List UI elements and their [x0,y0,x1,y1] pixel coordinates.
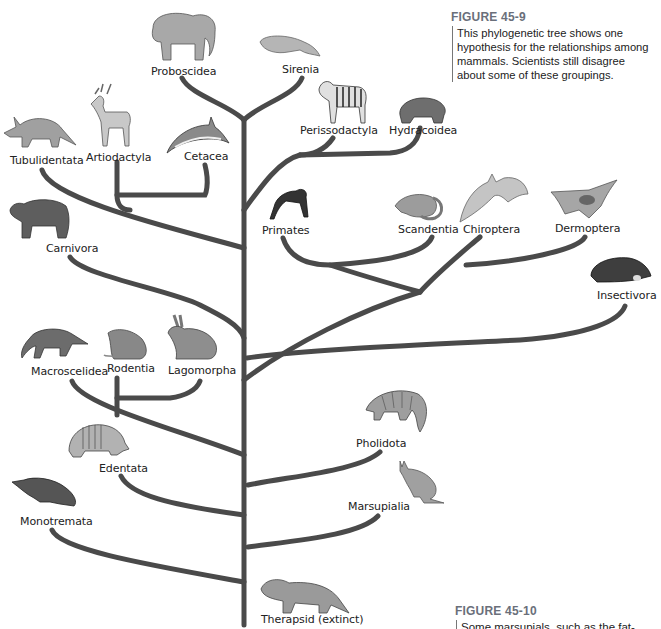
elephant-shrew-icon [16,322,88,364]
therapsid-icon [259,575,351,617]
tree-shrew-icon [393,186,445,222]
taxon-label: Monotremata [20,515,93,528]
taxon-label: Edentata [99,462,148,475]
chimpanzee-icon [266,185,310,223]
taxon-label: Proboscidea [151,65,216,78]
next-figure-heading: FIGURE 45-10 [455,604,537,618]
taxon-label: Hydracoidea [389,124,457,137]
deer-icon [85,82,135,150]
platypus-icon [10,474,78,510]
taxon-label: Sirenia [282,63,319,76]
next-figure-caption: Some marsupials, such as the fat-tailed [456,620,661,629]
taxon-label: Tubulidentata [10,154,84,167]
aardvark-icon [2,113,78,153]
manatee-icon [258,32,322,60]
figure-caption: This phylogenetic tree shows one hypothe… [452,26,655,82]
bat-icon [458,172,530,224]
taxon-label: Insectivora [597,289,657,302]
taxon-label: Lagomorpha [168,364,236,377]
taxon-label: Artiodactyla [86,151,151,164]
mouse-icon [102,325,150,361]
taxon-label: Macroscelidea [31,365,108,378]
figure-heading: FIGURE 45-9 [451,10,526,24]
rabbit-icon [164,313,220,363]
elephant-icon [145,8,220,64]
pangolin-icon [362,386,430,436]
taxon-label: Perissodactyla [300,124,378,137]
taxon-label: Dermoptera [555,222,620,235]
taxon-label: Primates [262,224,310,237]
bear-icon [8,196,70,242]
mole-icon [589,254,653,286]
taxon-label: Chiroptera [463,223,520,236]
taxon-label: Marsupialia [348,500,410,513]
taxon-label: Rodentia [107,362,155,375]
taxon-label: Cetacea [184,150,228,163]
root-label: Therapsid (extinct) [261,613,363,626]
taxon-label: Scandentia [398,223,459,236]
kangaroo-icon [394,457,446,505]
flying-lemur-icon [549,178,619,220]
taxon-label: Carnivora [46,242,98,255]
armadillo-icon [65,421,131,463]
hyrax-icon [396,95,448,125]
taxon-label: Pholidota [356,437,406,450]
zebra-icon [315,77,369,127]
